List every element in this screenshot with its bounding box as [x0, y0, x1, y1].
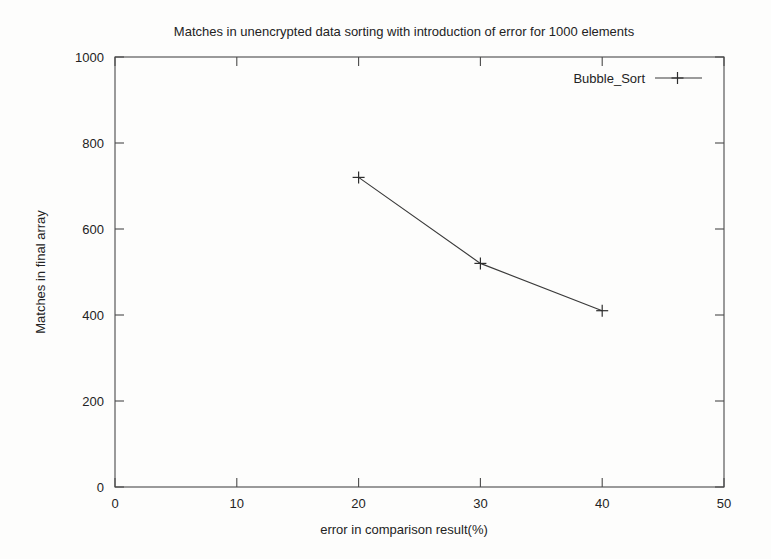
x-tick-labels: 0 10 20 30 40 50 — [111, 496, 731, 511]
x-tick-label: 50 — [717, 496, 731, 511]
plot-frame — [115, 57, 724, 487]
y-tick-label: 0 — [97, 480, 104, 495]
line-chart: Matches in unencrypted data sorting with… — [0, 0, 771, 559]
series-line-bubble-sort — [359, 177, 603, 310]
chart-title: Matches in unencrypted data sorting with… — [174, 24, 635, 39]
data-point-marker — [596, 305, 608, 317]
x-tick-label: 40 — [595, 496, 609, 511]
chart-container: Matches in unencrypted data sorting with… — [0, 0, 771, 559]
x-axis-ticks — [115, 57, 724, 487]
x-tick-label: 10 — [230, 496, 244, 511]
y-tick-label: 800 — [82, 136, 104, 151]
x-axis-title: error in comparison result(%) — [320, 522, 488, 537]
y-tick-label: 200 — [82, 394, 104, 409]
y-tick-labels: 0 200 400 600 800 1000 — [75, 50, 104, 495]
series-bubble-sort — [353, 171, 609, 316]
y-tick-label: 600 — [82, 222, 104, 237]
y-tick-label: 400 — [82, 308, 104, 323]
y-axis-title: Matches in final array — [33, 210, 48, 334]
data-point-marker — [474, 257, 486, 269]
y-axis-ticks — [115, 57, 724, 487]
legend: Bubble_Sort — [573, 71, 702, 86]
y-tick-label: 1000 — [75, 50, 104, 65]
legend-label-bubble-sort: Bubble_Sort — [573, 71, 645, 86]
legend-plus-marker — [672, 72, 684, 84]
x-tick-label: 20 — [351, 496, 365, 511]
data-point-marker — [353, 171, 365, 183]
x-tick-label: 0 — [111, 496, 118, 511]
x-tick-label: 30 — [473, 496, 487, 511]
